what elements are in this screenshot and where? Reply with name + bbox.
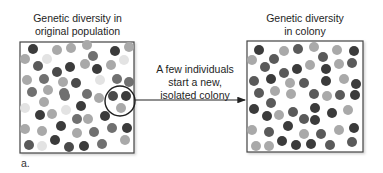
diagram-canvas: [0, 0, 383, 173]
